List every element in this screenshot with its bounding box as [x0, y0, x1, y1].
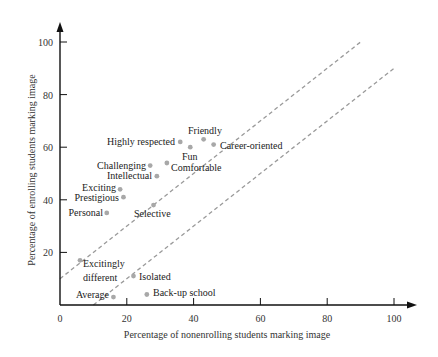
data-point-challenging — [148, 163, 153, 168]
data-point-personal — [104, 211, 109, 216]
y-tick-labels: 20 40 60 80 100 — [38, 37, 53, 258]
data-point-comfortable — [164, 161, 169, 166]
y-tick-label: 40 — [43, 195, 53, 206]
data-point-prestigious — [121, 195, 126, 200]
data-point-exciting — [118, 187, 123, 192]
point-labels: Friendly Career-oriented Highly respecte… — [69, 125, 283, 300]
x-axis-title: Percentage of nonenrolling students mark… — [124, 329, 331, 340]
x-tick-label: 80 — [322, 313, 332, 324]
point-label-average: Average — [76, 289, 110, 300]
point-label-excitingly-different-line2: different — [83, 272, 117, 283]
point-label-friendly: Friendly — [188, 125, 222, 136]
scatter-chart: 0 20 40 60 80 100 20 40 60 80 100 Percen… — [0, 0, 438, 357]
y-axis-arrow-icon — [57, 22, 64, 32]
data-point-friendly — [201, 137, 206, 142]
x-tick-labels: 0 20 40 60 80 100 — [58, 313, 402, 324]
y-tick-label: 80 — [43, 90, 53, 101]
data-point-fun — [188, 145, 193, 150]
point-label-selective: Selective — [134, 208, 171, 219]
y-axis-title: Percentage of enrolling students marking… — [26, 74, 37, 266]
x-ticks — [127, 298, 394, 305]
point-label-back-up-school: Back-up school — [153, 287, 216, 298]
point-label-personal: Personal — [69, 207, 104, 218]
x-axis-arrow-icon — [407, 302, 417, 309]
data-point-average — [111, 295, 116, 300]
y-tick-label: 100 — [38, 37, 53, 48]
data-point-highly-respected — [178, 140, 183, 145]
lower-boundary-dashed-line — [93, 68, 394, 305]
y-tick-label: 60 — [43, 142, 53, 153]
x-tick-label: 20 — [122, 313, 132, 324]
point-label-fun: Fun — [182, 151, 198, 162]
data-point-selective — [151, 203, 156, 208]
point-label-excitingly-different: Excitingly — [83, 258, 125, 269]
x-tick-label: 60 — [255, 313, 265, 324]
y-tick-label: 20 — [43, 247, 53, 258]
point-label-comfortable: Comfortable — [171, 162, 222, 173]
point-label-prestigious: Prestigious — [75, 192, 120, 203]
x-tick-label: 100 — [387, 313, 402, 324]
x-tick-label: 0 — [58, 313, 63, 324]
data-point-isolated — [131, 274, 136, 279]
data-point-excitingly-different — [78, 258, 83, 263]
point-label-intellectual: Intellectual — [107, 170, 152, 181]
data-point-back-up-school — [144, 292, 149, 297]
x-tick-label: 40 — [189, 313, 199, 324]
y-ticks — [60, 42, 67, 252]
data-point-career-oriented — [211, 142, 216, 147]
point-label-career-oriented: Career-oriented — [220, 140, 283, 151]
data-point-intellectual — [154, 174, 159, 179]
point-label-isolated: Isolated — [139, 271, 171, 282]
point-label-highly-respected: Highly respected — [107, 136, 175, 147]
